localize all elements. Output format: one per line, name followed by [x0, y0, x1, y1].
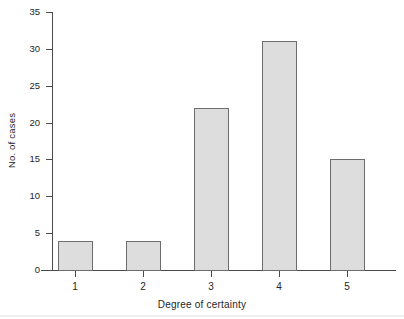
y-tick-mark	[46, 196, 52, 197]
y-tick-label: 25	[0, 80, 40, 91]
x-axis-label: Degree of certainty	[0, 299, 404, 310]
y-tick-mark	[46, 86, 52, 87]
x-tick-mark	[279, 271, 280, 277]
scan-edge-artifact	[0, 315, 404, 317]
x-tick-label: 2	[123, 281, 163, 292]
y-axis-line	[52, 12, 53, 271]
y-axis-label: No. of cases	[6, 91, 17, 191]
y-tick-mark	[46, 233, 52, 234]
x-tick-label: 3	[191, 281, 231, 292]
y-tick-mark	[46, 270, 52, 271]
bar-chart-figure: No. of cases 05101520253035 12345 Degree…	[0, 0, 404, 319]
x-tick-label: 4	[259, 281, 299, 292]
y-tick-label: 10	[0, 190, 40, 201]
y-tick-label: 15	[0, 153, 40, 164]
bar	[330, 159, 365, 271]
x-tick-label: 5	[327, 281, 367, 292]
bar	[194, 108, 229, 271]
bar	[58, 241, 93, 271]
y-tick-label: 30	[0, 43, 40, 54]
x-tick-mark	[75, 271, 76, 277]
x-tick-mark	[347, 271, 348, 277]
y-tick-mark	[46, 123, 52, 124]
bar	[126, 241, 161, 271]
bar	[262, 41, 297, 271]
y-tick-label: 0	[0, 264, 40, 275]
x-tick-mark	[143, 271, 144, 277]
x-tick-mark	[211, 271, 212, 277]
y-tick-label: 20	[0, 117, 40, 128]
x-tick-label: 1	[55, 281, 95, 292]
y-tick-mark	[46, 49, 52, 50]
y-tick-mark	[46, 159, 52, 160]
y-tick-mark	[46, 12, 52, 13]
y-tick-label: 35	[0, 6, 40, 17]
y-tick-label: 5	[0, 227, 40, 238]
